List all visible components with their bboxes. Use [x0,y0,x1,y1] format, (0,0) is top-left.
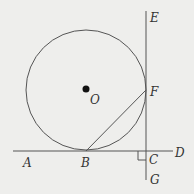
center-point-o [83,86,90,93]
label-e: E [149,11,159,25]
label-g: G [150,173,160,187]
label-c: C [149,153,158,167]
label-d: D [174,146,185,160]
right-angle-mark [138,151,146,160]
geometry-diagram: O A B C D E F G [0,0,194,194]
label-b: B [80,156,90,170]
label-f: F [149,85,159,99]
label-a: A [22,156,32,170]
label-o: O [90,93,100,107]
